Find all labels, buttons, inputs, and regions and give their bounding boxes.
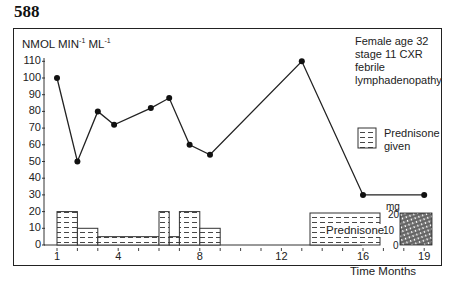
prednisone-block-label: Prednisone <box>325 224 385 237</box>
scale-tick-20: 20 <box>388 208 399 221</box>
y-tick-label: 20 <box>13 205 41 217</box>
legend-shapes <box>358 128 376 148</box>
y-tick-label: 10 <box>13 221 41 233</box>
scale-tick-10: 10 <box>383 224 394 237</box>
y-tick-label: 50 <box>13 155 41 167</box>
x-tick-label: 16 <box>353 250 373 262</box>
y-tick-label: 70 <box>13 121 41 133</box>
legend-label: Prednisone given <box>384 127 440 153</box>
x-tick-label: 4 <box>108 250 128 262</box>
patient-annotation: Female age 32 stage 11 CXR febrile lymph… <box>355 35 442 87</box>
x-tick-label: 19 <box>414 250 434 262</box>
y-tick-label: 80 <box>13 104 41 116</box>
x-axis-label: Time Months <box>350 265 416 278</box>
y-tick-label: 110 <box>13 54 41 66</box>
y-tick-label: 90 <box>13 88 41 100</box>
y-tick-label: 100 <box>13 71 41 83</box>
x-tick-label: 8 <box>190 250 210 262</box>
y-axis-label: NMOL MIN-1 ML-1 <box>22 34 111 51</box>
y-tick-label: 40 <box>13 171 41 183</box>
y-tick-label: 30 <box>13 188 41 200</box>
x-tick-label: 1 <box>47 250 67 262</box>
x-tick-label: 12 <box>271 250 291 262</box>
scale-tick-0: 0 <box>393 239 399 252</box>
y-tick-label: 0 <box>13 238 41 250</box>
y-tick-label: 60 <box>13 138 41 150</box>
